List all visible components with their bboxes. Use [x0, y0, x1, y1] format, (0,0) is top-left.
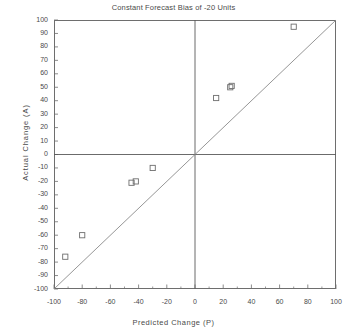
y-tick-label: 70	[14, 56, 48, 63]
y-tick-label: -40	[14, 204, 48, 211]
y-tick-label: 90	[14, 29, 48, 36]
x-tick-label: 100	[319, 298, 347, 305]
y-tick-label: 80	[14, 42, 48, 49]
y-tick-label: 50	[14, 83, 48, 90]
y-tick-label: 100	[14, 16, 48, 23]
y-axis-title: Actual Change (A)	[21, 73, 30, 213]
y-tick-label: 30	[14, 110, 48, 117]
x-axis-title: Predicted Change (P)	[0, 318, 347, 327]
scatter-chart: Constant Forecast Bias of -20 Units -100…	[0, 0, 347, 335]
plot-area	[54, 20, 336, 289]
y-tick-label: -100	[14, 285, 48, 292]
y-tick-label: -50	[14, 217, 48, 224]
y-tick-label: 20	[14, 123, 48, 130]
y-tick-label: -70	[14, 244, 48, 251]
y-tick-label: -10	[14, 163, 48, 170]
y-tick-label: -80	[14, 258, 48, 265]
y-tick-label: 60	[14, 69, 48, 76]
y-tick-label: -20	[14, 177, 48, 184]
chart-title: Constant Forecast Bias of -20 Units	[0, 3, 347, 12]
y-tick-label: 10	[14, 137, 48, 144]
y-tick-label: -30	[14, 190, 48, 197]
y-tick-label: 40	[14, 96, 48, 103]
y-tick-label: -60	[14, 231, 48, 238]
y-tick-label: -90	[14, 271, 48, 278]
y-tick-label: 0	[14, 150, 48, 157]
